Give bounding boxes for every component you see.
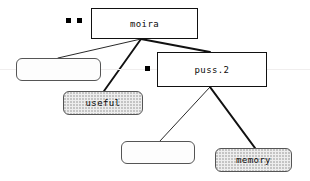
edge-puss2-to-bottom-empty (160, 87, 210, 141)
bullet-marker-2 (77, 18, 82, 23)
node-useful[interactable]: useful (63, 91, 143, 115)
node-useful-label: useful (86, 98, 121, 108)
node-memory-label: memory (236, 155, 271, 165)
node-left-empty[interactable] (16, 58, 101, 81)
bullet-marker-1 (66, 18, 71, 23)
diagram-canvas: moira useful puss.2 memory (0, 0, 310, 181)
edge-moira-to-puss2 (141, 39, 210, 52)
edge-moira-to-useful (104, 39, 141, 91)
node-puss2-label: puss.2 (195, 65, 230, 75)
node-memory[interactable]: memory (215, 148, 292, 172)
node-moira-label: moira (130, 19, 159, 29)
edge-puss2-to-memory (210, 87, 255, 148)
node-bottom-empty[interactable] (121, 141, 195, 164)
bullet-marker-3 (145, 66, 150, 71)
node-moira[interactable]: moira (91, 8, 198, 39)
node-puss2[interactable]: puss.2 (157, 52, 267, 87)
